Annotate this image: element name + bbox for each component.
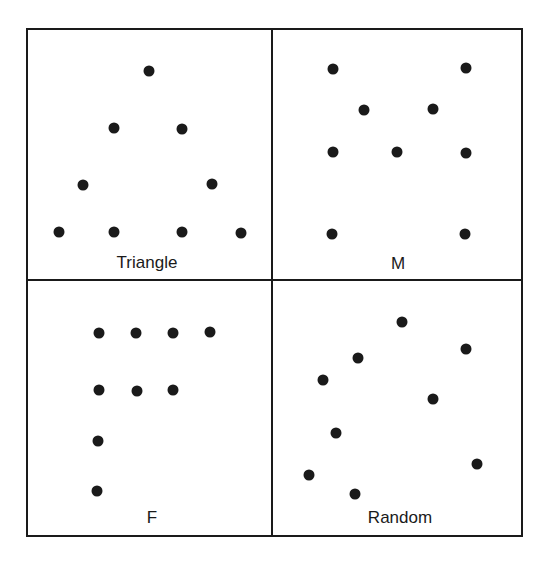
dot: [177, 227, 188, 238]
dot: [94, 328, 105, 339]
dot: [236, 228, 247, 239]
dot: [78, 180, 89, 191]
dot: [131, 328, 142, 339]
dot: [94, 385, 105, 396]
dot: [472, 459, 483, 470]
dot: [93, 436, 104, 447]
dot: [168, 385, 179, 396]
dot: [92, 486, 103, 497]
dot: [461, 63, 472, 74]
dot: [392, 147, 403, 158]
dot-pattern-canvas: Triangle M F Random: [0, 0, 555, 561]
panel-label-m: M: [391, 254, 405, 273]
dot: [109, 227, 120, 238]
dot: [461, 148, 472, 159]
dot: [331, 428, 342, 439]
dot: [328, 147, 339, 158]
dot: [328, 64, 339, 75]
dot: [460, 229, 471, 240]
dot: [318, 375, 329, 386]
dot: [177, 124, 188, 135]
dot: [428, 394, 439, 405]
dot: [461, 344, 472, 355]
dot: [350, 489, 361, 500]
dot: [205, 327, 216, 338]
dot: [132, 386, 143, 397]
dot-pattern-figure: Triangle M F Random: [0, 0, 555, 561]
dot: [397, 317, 408, 328]
dot: [144, 66, 155, 77]
dot: [428, 104, 439, 115]
dot: [353, 353, 364, 364]
dot: [304, 470, 315, 481]
dot: [327, 229, 338, 240]
dot: [168, 328, 179, 339]
dot: [207, 179, 218, 190]
dot: [359, 105, 370, 116]
dot: [54, 227, 65, 238]
panel-label-random: Random: [368, 508, 432, 527]
dot: [109, 123, 120, 134]
panel-label-f: F: [147, 508, 157, 527]
panel-label-triangle: Triangle: [117, 253, 178, 272]
